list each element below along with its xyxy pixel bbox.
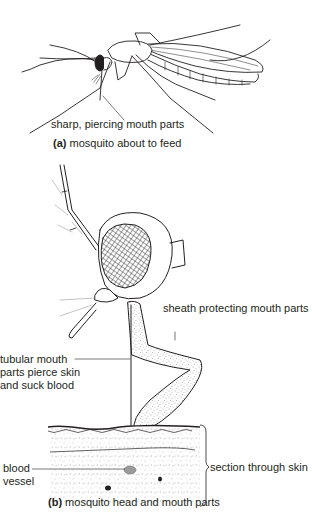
mosquito-diagram-artwork [0, 0, 312, 517]
mosquito-side-view [22, 25, 270, 133]
label-blood-line1: blood [3, 462, 34, 475]
caption-letter-b: (b) [48, 496, 62, 508]
label-tubular-line1: tubular mouth [0, 353, 80, 366]
caption-panel-b: (b) mosquito head and mouth parts [48, 496, 220, 509]
label-tubular-line2: parts pierce skin [0, 366, 80, 379]
caption-text-a: mosquito about to feed [66, 137, 181, 149]
label-sheath: sheath protecting mouth parts [163, 302, 309, 315]
label-tubular-mouth-parts: tubular mouth parts pierce skin and suck… [0, 353, 80, 392]
label-tubular-line3: and suck blood [0, 379, 80, 392]
label-skin-section: section through skin [210, 461, 308, 474]
caption-panel-a: (a) mosquito about to feed [53, 137, 181, 150]
skin-section [32, 425, 209, 506]
label-blood-vessel: blood vessel [3, 462, 34, 488]
label-blood-line2: vessel [3, 475, 34, 488]
caption-text-b: mosquito head and mouth parts [62, 496, 220, 508]
caption-letter-a: (a) [53, 137, 66, 149]
label-mouth-parts: sharp, piercing mouth parts [51, 118, 184, 131]
